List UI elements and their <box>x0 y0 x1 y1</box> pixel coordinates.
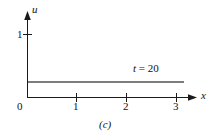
annotation-equals: = <box>136 62 148 74</box>
y-axis-arrow-icon <box>24 11 31 20</box>
x-tick-label-3: 3 <box>173 101 179 112</box>
y-tick-label-1: 1 <box>17 29 23 40</box>
x-axis-arrow-icon <box>188 94 197 101</box>
figure-caption: (c) <box>99 119 111 130</box>
figure-panel-c: u x 1 0 1 2 3 t = 20 (c) <box>0 0 217 139</box>
y-axis-label: u <box>32 4 38 15</box>
x-tick-label-2: 2 <box>123 101 129 112</box>
x-axis-label: x <box>201 90 206 101</box>
annotation-value: 20 <box>148 62 159 74</box>
x-tick-label-0: 0 <box>17 101 23 112</box>
curve-annotation-t-20: t = 20 <box>133 63 159 74</box>
x-tick-label-1: 1 <box>73 101 79 112</box>
